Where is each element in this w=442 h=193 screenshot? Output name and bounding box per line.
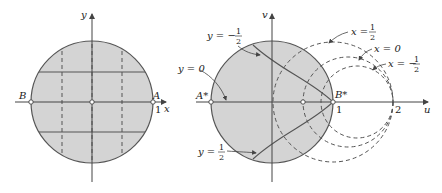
tick-2: 2 <box>395 104 401 115</box>
point-B <box>29 100 33 104</box>
tick-1: 1 <box>336 104 342 115</box>
right-diagram: v u A* B* 1 2 y = − 1 2 y = 0 y = 1 2 x <box>177 9 430 182</box>
point-B-star <box>331 100 335 104</box>
point-A-star <box>209 100 213 104</box>
svg-text:2: 2 <box>370 33 375 42</box>
label-B: B <box>18 90 26 101</box>
point-center <box>301 100 305 104</box>
svg-text:1: 1 <box>219 143 224 152</box>
svg-text:1: 1 <box>414 55 419 64</box>
svg-text:y = −: y = − <box>206 30 236 41</box>
x-axis-label: x <box>164 103 170 114</box>
v-axis-label: v <box>262 9 268 20</box>
label-x-half: x = 1 2 <box>329 23 376 43</box>
conformal-mapping-figure: y x B A 1 v u A* B* 1 2 y = − 1 <box>0 0 442 193</box>
svg-text:2: 2 <box>236 37 241 46</box>
svg-text:x = 0: x = 0 <box>374 43 401 54</box>
svg-text:y =: y = <box>197 146 215 157</box>
point-origin <box>90 100 94 104</box>
svg-text:x =: x = <box>351 26 368 37</box>
tick-1: 1 <box>155 104 161 115</box>
left-diagram: y x B A 1 <box>15 9 170 182</box>
label-A-star: A* <box>195 90 208 101</box>
svg-text:2: 2 <box>219 153 224 162</box>
label-B-star: B* <box>334 89 347 100</box>
svg-text:x = −: x = − <box>388 58 417 69</box>
svg-text:y = 0: y = 0 <box>177 63 205 74</box>
label-A: A <box>152 90 160 101</box>
u-axis-label: u <box>424 104 430 115</box>
svg-text:2: 2 <box>414 65 419 74</box>
svg-text:1: 1 <box>370 23 375 32</box>
y-axis-label: y <box>80 9 87 20</box>
svg-text:1: 1 <box>236 27 241 36</box>
